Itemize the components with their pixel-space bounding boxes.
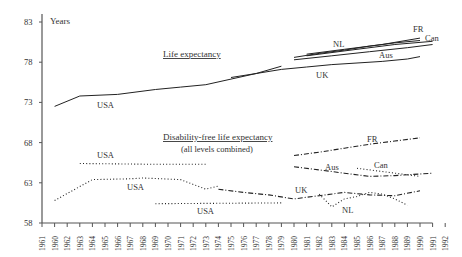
x-tick-label: 1965 [101, 236, 110, 251]
y-tick-label: 78 [24, 57, 33, 67]
x-tick-label: 1985 [353, 236, 362, 251]
series-label: Aus [379, 50, 393, 60]
y-tick-label: 68 [24, 138, 33, 148]
series-label: NL [342, 205, 353, 215]
x-tick-label: 1978 [265, 236, 274, 251]
series-nl-dfle [319, 192, 407, 207]
x-tick-label: 1975 [227, 236, 236, 251]
x-tick-label: 1990 [416, 236, 425, 251]
x-tick-label: 1974 [214, 236, 223, 251]
x-tick-label: 1991 [429, 236, 438, 251]
x-tick-label: 1973 [202, 236, 211, 251]
x-tick-label: 1987 [378, 236, 387, 251]
x-tick-label: 1961 [38, 236, 47, 251]
series-label: USA [197, 206, 215, 216]
series-fr-life [307, 38, 420, 54]
life-expectancy-title: Life expectancy [163, 49, 221, 59]
y-tick-label: 63 [24, 178, 33, 188]
x-tick-label: 1966 [114, 236, 123, 251]
x-tick-label: 1979 [277, 236, 286, 251]
x-tick-label: 1967 [126, 236, 135, 251]
x-tick-label: 1984 [340, 236, 349, 251]
series-label: Aus [325, 162, 339, 172]
x-tick-label: 1980 [290, 236, 299, 251]
x-tick-label: 1964 [88, 236, 97, 251]
series-can-dfle [357, 168, 420, 176]
x-tick-label: 1982 [315, 236, 324, 251]
x-tick-label: 1977 [252, 236, 261, 251]
y-axis-label: Years [50, 16, 71, 26]
x-tick-label: 1971 [177, 236, 186, 251]
x-tick-label: 1963 [76, 236, 85, 251]
x-tick-label: 1981 [303, 236, 312, 251]
series-label: Can [425, 33, 439, 43]
series-label: UK [316, 70, 329, 80]
y-tick-label: 73 [24, 97, 33, 107]
y-tick-label: 58 [24, 218, 33, 228]
series-can-life [307, 41, 433, 56]
x-tick-label: 1968 [139, 236, 148, 251]
series-label: UK [295, 185, 308, 195]
series-label: FR [367, 134, 378, 144]
series-fr-dfle [294, 138, 420, 156]
series-label: NL [333, 39, 344, 49]
series-label: USA [127, 182, 145, 192]
series-labels: USAUKNLFRCanAusUSAUSAUSAUKFRAusCanNL [97, 24, 439, 216]
x-tick-label: 1976 [240, 236, 249, 251]
series-label: Can [374, 160, 388, 170]
x-tick-label: 1970 [164, 236, 173, 251]
x-tick-label: 1986 [366, 236, 375, 251]
x-tick-label: 1992 [441, 236, 450, 251]
y-tick-label: 83 [24, 17, 33, 27]
series-uk-dfle [218, 189, 420, 199]
x-tick-label: 1962 [63, 236, 72, 251]
series-label: USA [97, 100, 115, 110]
x-tick-label: 1960 [51, 236, 60, 251]
series-label: FR [413, 24, 424, 34]
x-tick-label: 1972 [189, 236, 198, 251]
dfle-title: Disability-free life expectancy [163, 132, 273, 142]
x-tick-label: 1969 [151, 236, 160, 251]
series-usa-dfle [155, 203, 281, 204]
series-usa-dfle [80, 164, 206, 165]
line-chart: 5863687378831961196019621963196419651966… [0, 0, 462, 257]
series-lines [55, 38, 433, 207]
x-tick-label: 1983 [328, 236, 337, 251]
series-label: USA [97, 150, 115, 160]
x-tick-label: 1989 [403, 236, 412, 251]
dfle-subtitle: (all levels combined) [181, 144, 253, 154]
x-tick-label: 1988 [391, 236, 400, 251]
series-usa-life [55, 66, 282, 106]
